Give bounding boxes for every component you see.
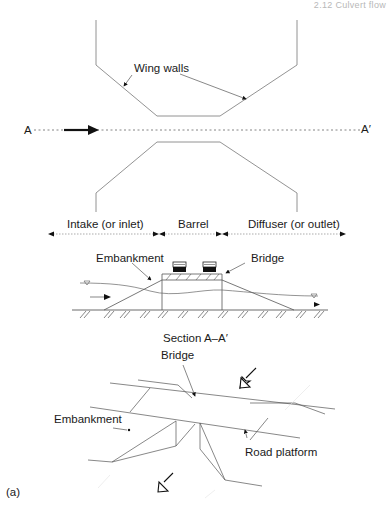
embankment-leader-dot [128, 429, 130, 431]
hollow-arrow-down-left-icon [240, 368, 256, 388]
perspective-bridge-label: Bridge [161, 349, 194, 362]
embankment-label: Embankment [96, 252, 164, 265]
zone-intake-label: Intake (or inlet) [67, 218, 144, 231]
water-surface [80, 283, 318, 296]
hollow-arrow-down-left-icon [158, 473, 173, 492]
zone-diffuser-label: Diffuser (or outlet) [248, 218, 340, 231]
zone-barrel-label: Barrel [178, 218, 209, 231]
vehicle-icon [173, 262, 186, 272]
bridge-label: Bridge [251, 252, 284, 265]
vehicle-icon [203, 262, 216, 272]
section-end-label: A′ [361, 123, 371, 136]
wing-walls-leaders [124, 74, 246, 99]
perspective-embankment-label: Embankment [54, 413, 122, 426]
embankment-section [104, 274, 294, 310]
section-caption: Section A–A′ [163, 332, 228, 345]
figure-label: (a) [6, 486, 20, 499]
flow-direction-icon [90, 294, 320, 307]
water-level-icon [84, 281, 317, 298]
wing-walls-top [96, 20, 297, 116]
section-start-label: A [24, 124, 32, 137]
ground-hatching [80, 311, 324, 318]
wing-walls-label: Wing walls [134, 62, 189, 75]
deck-hatching [166, 274, 219, 280]
faint-guides [98, 385, 310, 498]
culvert-diagram [0, 0, 388, 523]
flow-arrow-icon [64, 125, 99, 135]
embankment-slopes [88, 421, 262, 486]
road-platform [90, 380, 335, 440]
road-platform-label: Road platform [245, 446, 317, 459]
wing-walls-bottom [96, 142, 297, 212]
